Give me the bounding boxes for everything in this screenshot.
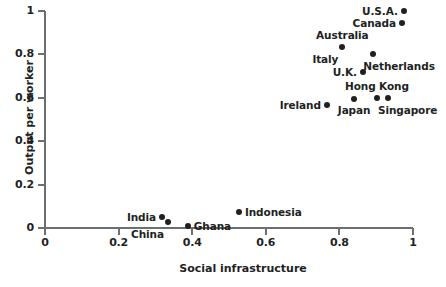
y-tick-label-0: 0: [0, 221, 34, 234]
point-label-singapore: Singapore: [378, 104, 437, 116]
x-tick-0.8: [338, 228, 340, 235]
x-tick-0.2: [118, 228, 120, 235]
x-axis-title: Social infrastructure: [0, 262, 446, 275]
y-tick-0.4: [38, 140, 45, 142]
x-tick-label-0: 0: [25, 236, 65, 249]
y-tick-0.2: [38, 184, 45, 186]
y-tick-1: [38, 10, 45, 12]
data-point-japan: [351, 96, 357, 102]
point-label-ghana: Ghana: [194, 220, 231, 232]
data-point-netherlands: [370, 51, 376, 57]
data-point-u-s-a: [401, 8, 407, 14]
x-tick-label-0.8: 0.8: [319, 236, 359, 249]
plot-area: [45, 11, 413, 228]
point-label-u-k: U.K.: [333, 66, 357, 78]
point-label-australia: Australia: [316, 29, 369, 41]
x-axis-title-text: Social infrastructure: [179, 262, 307, 275]
y-tick-0.8: [38, 53, 45, 55]
point-label-canada: Canada: [353, 17, 396, 29]
x-tick-0.6: [265, 228, 267, 235]
point-label-u-s-a: U.S.A.: [362, 5, 398, 17]
point-label-hong-kong: Hong Kong: [345, 80, 409, 92]
data-point-australia: [339, 44, 345, 50]
x-tick-1: [412, 228, 414, 235]
data-point-hong-kong: [374, 95, 380, 101]
x-tick-label-0.6: 0.6: [246, 236, 286, 249]
y-tick-0.6: [38, 97, 45, 99]
point-label-china: China: [131, 228, 164, 240]
point-label-india: India: [127, 211, 156, 223]
point-label-indonesia: Indonesia: [245, 206, 302, 218]
x-tick-label-0.4: 0.4: [172, 236, 212, 249]
data-point-indonesia: [236, 209, 242, 215]
data-point-india: [159, 214, 165, 220]
data-point-ghana: [185, 223, 191, 229]
y-tick-label-1: 1: [0, 4, 34, 17]
scatter-plot-figure: 00.20.40.60.81 00.20.40.60.81 Social inf…: [0, 0, 446, 287]
y-axis-title: Output per worker: [23, 28, 36, 208]
data-point-singapore: [385, 95, 391, 101]
x-tick-0: [44, 228, 46, 235]
point-label-italy: Italy: [312, 53, 338, 65]
point-label-japan: Japan: [338, 104, 371, 116]
data-point-china: [165, 219, 171, 225]
point-label-ireland: Ireland: [280, 99, 321, 111]
point-label-netherlands: Netherlands: [363, 60, 435, 72]
x-tick-label-1: 1: [393, 236, 433, 249]
data-point-canada: [399, 20, 405, 26]
data-point-ireland: [324, 102, 330, 108]
